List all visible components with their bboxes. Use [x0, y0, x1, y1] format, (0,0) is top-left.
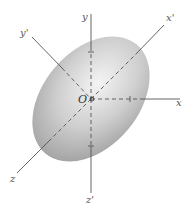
- z-prime-axis-label: z': [85, 194, 94, 205]
- y-prime-axis-outer: [32, 37, 62, 68]
- x-prime-axis-outer: [136, 25, 164, 54]
- z-axis-outer: [17, 141, 49, 173]
- x-axis-label: x: [176, 97, 182, 108]
- z-axis-label: z: [9, 173, 16, 184]
- y-prime-axis-label: y': [19, 27, 28, 38]
- ellipsoid-axes-diagram: O y x x' y' z z': [0, 0, 194, 210]
- x-prime-axis-label: x': [166, 12, 174, 23]
- origin-label: O: [78, 93, 87, 106]
- y-axis-label: y: [81, 11, 88, 22]
